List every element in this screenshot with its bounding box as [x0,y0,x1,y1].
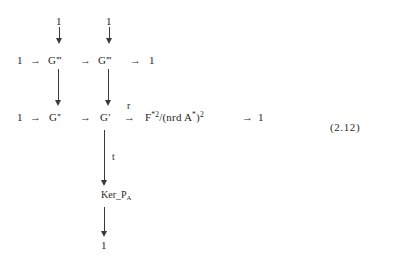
row2-term-g-prime: G' [100,112,110,123]
arrow-row1-to-row2-left [58,69,60,101]
arrow-ker-to-bottom-terminal [104,207,105,232]
arrow-top-right-down [109,27,110,39]
arrow-row1-to-row2-right [108,69,110,101]
node-ker-p-a: Ker_PA [101,190,131,200]
row1-g-primes-right: ''' [106,54,111,66]
arrow-top-left-down [59,27,60,39]
commutative-diagram: 1 1 1 → G''' → G''' → 1 1 → G'' → G' r →… [0,0,410,267]
arrow-label-t: t [112,152,115,162]
ker-p-subscript-a: A [127,194,132,201]
node-bottom-terminal: 1 [101,240,107,251]
node-top-left-terminal: 1 [56,16,62,27]
row2-end-terminal: 1 [258,112,264,123]
quotient-slash-and-denominator: /(nrd A [159,111,192,123]
row2-arrow-3: → [124,112,135,123]
row1-g-primes-left: ''' [56,54,61,66]
row1-arrow-3: → [130,55,141,66]
row2-arrow-1: → [30,112,41,123]
row2-arrow-2: → [80,112,91,123]
row1-end-terminal: 1 [149,55,155,66]
row1-arrow-2: → [80,55,91,66]
node-top-right-terminal: 1 [106,16,112,27]
row1-term-g-triple-prime-right: G''' [98,55,111,66]
row1-g-base-left: G [48,54,56,66]
row1-start-terminal: 1 [17,55,23,66]
row2-g-base-right: G [100,111,108,123]
ker-text: Ker [101,189,116,200]
row2-term-g-double-prime: G'' [49,112,61,123]
row2-arrow-3-label-r: r [127,101,130,111]
denominator-exponent-two: 2 [200,110,204,119]
equation-number: (2.12) [330,122,360,133]
arrow-row2-to-ker-labelled-t [104,130,105,181]
row1-g-base-right: G [98,54,106,66]
row2-g-primes-left: '' [57,111,60,123]
row1-arrow-1: → [30,55,41,66]
row2-quotient-expression: F*2/(nrd A*)2 [145,112,204,123]
row2-g-base-left: G [49,111,57,123]
row2-start-terminal: 1 [17,112,23,123]
row2-g-primes-right: ' [108,111,110,123]
row2-arrow-4: → [242,112,253,123]
row1-term-g-triple-prime-left: G''' [48,55,61,66]
